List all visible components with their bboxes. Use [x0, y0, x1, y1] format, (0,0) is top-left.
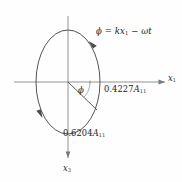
ellipse-diagram-svg	[0, 0, 182, 182]
x3-axis-label: x3	[63, 164, 71, 174]
amplitude-x3-subscript: 11	[99, 132, 106, 138]
amplitude-x1-value: 0.4227	[104, 84, 134, 94]
phase-formula-equals: =	[105, 26, 112, 36]
phase-formula-phi: ϕ	[96, 26, 102, 36]
phi-angle-symbol: ϕ	[78, 85, 84, 95]
amplitude-x1-label: 0.4227A11	[104, 85, 146, 95]
x1-axis-label: x1	[168, 74, 176, 84]
phase-formula-x-subscript: 1	[125, 30, 128, 36]
amplitude-x3-value: 0.6204	[63, 128, 93, 138]
x3-axis-arrowhead	[66, 152, 71, 159]
phase-formula-minus: −	[131, 26, 138, 36]
phase-formula-label: ϕ = kx1 − ωt	[96, 27, 152, 37]
amplitude-x3-label: 0.6204A11	[63, 129, 105, 139]
figure-container: ϕ = kx1 − ωt ϕ 0.4227A11 0.6204A11 x1 x3	[0, 0, 182, 182]
phi-angle-label: ϕ	[78, 86, 84, 95]
x1-axis-subscript: 1	[173, 77, 176, 83]
phase-formula-t: t	[148, 26, 152, 36]
x1-axis-arrowhead	[159, 80, 166, 85]
phi-angle-arc	[84, 82, 90, 98]
x3-axis-subscript: 3	[68, 167, 71, 173]
amplitude-x1-subscript: 11	[140, 88, 147, 94]
